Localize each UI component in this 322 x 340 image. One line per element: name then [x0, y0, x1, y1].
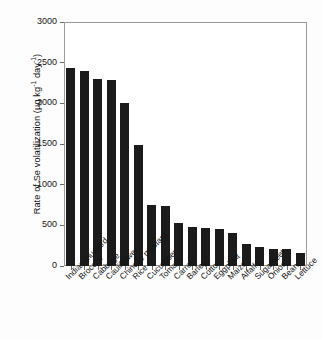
- bar: [107, 80, 116, 266]
- y-tick-label: 3000: [37, 16, 57, 26]
- x-axis-label: Broccoli: [77, 274, 84, 281]
- x-axis-label: Rice: [131, 274, 138, 281]
- y-tick-label: 2500: [37, 57, 57, 67]
- x-axis-label: Maize: [225, 274, 232, 281]
- x-axis-label: Tomato: [158, 274, 165, 281]
- x-axis-label: Cabbage: [90, 274, 97, 281]
- y-tick-label: 0: [52, 260, 57, 270]
- y-tick-label: 2000: [37, 97, 57, 107]
- x-axis-label: Cotton: [198, 274, 205, 281]
- chart-figure: Rate of Se volatilization (µg kg-1 day-1…: [0, 0, 322, 340]
- y-axis-title-sup2: -1: [30, 57, 37, 63]
- bar: [66, 68, 75, 266]
- x-axis-label: Lettuce: [293, 274, 300, 281]
- x-axis-label: Cauliflower: [104, 274, 111, 281]
- x-axis-label: Alfalfa: [239, 274, 246, 281]
- y-axis-title-sup1: -1: [30, 81, 37, 87]
- x-axis-label: Indian mustard: [63, 274, 70, 281]
- x-axis-label: Cucumber: [144, 274, 151, 281]
- bar: [120, 103, 129, 266]
- bar: [80, 71, 89, 266]
- x-axis-label: Bean: [279, 274, 286, 281]
- x-axis-label: Onion: [266, 274, 273, 281]
- x-axis-label: Eggplant: [212, 274, 219, 281]
- y-tick-label: 500: [42, 219, 57, 229]
- x-axis-label: Chinese mustard: [117, 274, 124, 281]
- y-tick-label: 1000: [37, 179, 57, 189]
- y-tick-label: 1500: [37, 138, 57, 148]
- x-axis-label: Barley: [185, 274, 192, 281]
- x-axis-label: Carrot: [171, 274, 178, 281]
- bar-series: [64, 22, 307, 266]
- x-axis-label: Sugarbeet: [252, 274, 259, 281]
